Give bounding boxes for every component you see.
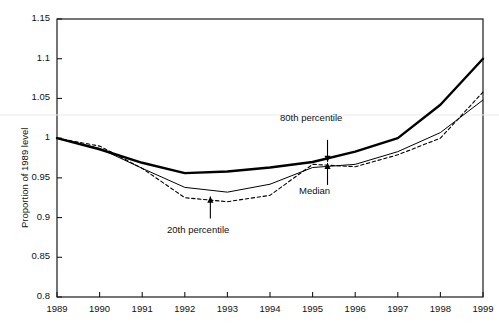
x-tick-label: 1995 <box>293 303 333 314</box>
x-tick-label: 1993 <box>207 303 247 314</box>
y-tick-label: 0.85 <box>16 250 50 261</box>
y-tick-label: 1.15 <box>16 12 50 23</box>
y-tick-label: 0.8 <box>16 290 50 301</box>
y-tick-label: 1.05 <box>16 91 50 102</box>
y-tick-label: 0.9 <box>16 211 50 222</box>
x-tick-label: 1998 <box>420 303 460 314</box>
chart-figure: Proportion of 1989 level 0.80.850.90.951… <box>0 0 499 330</box>
x-tick-label: 1996 <box>335 303 375 314</box>
y-tick-label: 1.1 <box>16 52 50 63</box>
data-series-group <box>57 59 483 202</box>
x-tick-label: 1991 <box>122 303 162 314</box>
y-tick-label: 0.95 <box>16 171 50 182</box>
x-tick-label: 1997 <box>378 303 418 314</box>
annotation-20th-percentile: 20th percentile <box>167 224 229 235</box>
chart-plot-area <box>0 0 499 330</box>
x-tick-label: 1990 <box>80 303 120 314</box>
annotation-median: Median <box>299 185 330 196</box>
annotation-80th-percentile: 80th percentile <box>280 112 342 123</box>
y-tick-marks <box>57 19 62 297</box>
x-tick-label: 1989 <box>37 303 77 314</box>
x-tick-marks <box>57 292 483 297</box>
x-tick-label: 1994 <box>250 303 290 314</box>
arrow-head <box>207 197 213 203</box>
x-tick-label: 1992 <box>165 303 205 314</box>
series-line-20th-percentile <box>57 92 483 202</box>
x-tick-label: 1999 <box>463 303 499 314</box>
y-tick-label: 1 <box>16 131 50 142</box>
annotation-arrows <box>207 140 330 219</box>
series-line-80th-percentile <box>57 59 483 173</box>
